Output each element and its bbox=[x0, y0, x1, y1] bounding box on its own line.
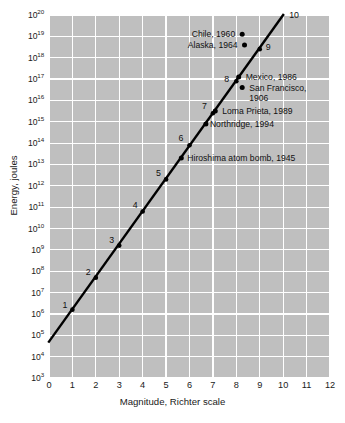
y-axis-title: Energy, joules bbox=[8, 121, 19, 251]
magnitude-label-10: 10 bbox=[289, 11, 299, 20]
magnitude-label-3: 3 bbox=[109, 236, 114, 245]
x-tick-0: 0 bbox=[46, 380, 51, 390]
annotation-northridge-1994: Northridge, 1994 bbox=[210, 119, 274, 129]
x-tick-7: 7 bbox=[210, 380, 215, 390]
annotation-alaska-1964: Alaska, 1964 bbox=[188, 40, 238, 50]
annotation-mexico-1986: Mexico, 1986 bbox=[246, 72, 297, 82]
y-tick-10-6: 106 bbox=[31, 309, 44, 318]
x-tick-2: 2 bbox=[93, 380, 98, 390]
x-axis-title: Magnitude, Richter scale bbox=[0, 396, 345, 407]
x-tick-12: 12 bbox=[325, 380, 335, 390]
y-tick-10-15: 1015 bbox=[28, 117, 44, 126]
plot-area bbox=[49, 15, 330, 378]
y-tick-10-18: 1018 bbox=[28, 53, 44, 62]
y-tick-10-7: 107 bbox=[31, 288, 44, 297]
annotation-1906: 1906 bbox=[249, 93, 268, 103]
annotation-hiroshima-atom-bomb-1945: Hiroshima atom bomb, 1945 bbox=[187, 153, 295, 163]
y-tick-10-4: 104 bbox=[31, 352, 44, 361]
magnitude-label-5: 5 bbox=[156, 169, 161, 178]
y-tick-10-3: 103 bbox=[31, 374, 44, 383]
x-tick-9: 9 bbox=[257, 380, 262, 390]
x-tick-11: 11 bbox=[302, 380, 312, 390]
y-tick-10-11: 1011 bbox=[28, 203, 44, 212]
magnitude-label-1: 1 bbox=[62, 301, 67, 310]
earthquake-energy-chart: 1031041051061071081091010101110121013101… bbox=[0, 0, 345, 423]
y-tick-10-20: 1020 bbox=[28, 11, 44, 20]
y-tick-10-8: 108 bbox=[31, 267, 44, 276]
x-tick-8: 8 bbox=[234, 380, 239, 390]
magnitude-label-2: 2 bbox=[86, 268, 91, 277]
y-tick-10-17: 1017 bbox=[28, 75, 44, 84]
x-tick-3: 3 bbox=[117, 380, 122, 390]
y-tick-10-10: 1010 bbox=[28, 224, 44, 233]
annotation-loma-prieta-1989: Loma Prieta, 1989 bbox=[222, 106, 292, 116]
event-marker-dots bbox=[179, 32, 247, 161]
magnitude-label-6: 6 bbox=[179, 134, 184, 143]
y-tick-10-12: 1012 bbox=[28, 181, 44, 190]
x-tick-10: 10 bbox=[278, 380, 288, 390]
x-tick-1: 1 bbox=[70, 380, 75, 390]
y-tick-10-16: 1016 bbox=[28, 96, 44, 105]
y-tick-10-14: 1014 bbox=[28, 139, 44, 148]
y-tick-10-5: 105 bbox=[31, 331, 44, 340]
magnitude-label-7: 7 bbox=[202, 102, 207, 111]
annotation-chile-1960: Chile, 1960 bbox=[192, 29, 235, 39]
y-tick-10-19: 1019 bbox=[28, 32, 44, 41]
y-tick-10-13: 1013 bbox=[28, 160, 44, 169]
annotation-san-francisco: San Francisco, bbox=[249, 83, 306, 93]
data-layer bbox=[49, 15, 330, 378]
x-tick-4: 4 bbox=[140, 380, 145, 390]
x-tick-5: 5 bbox=[164, 380, 169, 390]
magnitude-label-8: 8 bbox=[224, 75, 229, 84]
y-tick-10-9: 109 bbox=[31, 245, 44, 254]
x-tick-6: 6 bbox=[187, 380, 192, 390]
magnitude-label-9: 9 bbox=[266, 43, 271, 52]
magnitude-label-4: 4 bbox=[133, 201, 138, 210]
